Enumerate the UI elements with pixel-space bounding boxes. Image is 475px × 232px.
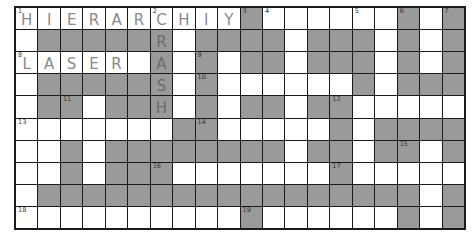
shaded-cell[interactable] — [398, 119, 419, 140]
answer-cell[interactable] — [420, 141, 441, 162]
shaded-cell[interactable] — [151, 141, 172, 162]
shaded-cell[interactable] — [38, 30, 59, 51]
shaded-cell[interactable] — [241, 141, 262, 162]
shaded-cell[interactable] — [196, 96, 217, 117]
answer-cell[interactable] — [420, 8, 441, 29]
shaded-cell[interactable] — [61, 30, 82, 51]
shaded-cell[interactable] — [353, 30, 374, 51]
shaded-cell[interactable] — [353, 74, 374, 95]
answer-cell[interactable] — [128, 119, 149, 140]
shaded-cell[interactable] — [218, 30, 239, 51]
shaded-cell[interactable] — [83, 185, 104, 206]
shaded-cell[interactable] — [443, 30, 464, 51]
shaded-cell[interactable]: 17 — [330, 163, 351, 184]
shaded-cell[interactable] — [398, 74, 419, 95]
answer-cell[interactable]: A — [106, 8, 127, 29]
answer-cell[interactable] — [38, 163, 59, 184]
shaded-cell[interactable] — [173, 185, 194, 206]
shaded-cell[interactable] — [61, 141, 82, 162]
shaded-cell[interactable] — [241, 96, 262, 117]
answer-cell[interactable] — [330, 8, 351, 29]
answer-cell[interactable] — [16, 30, 37, 51]
shaded-cell[interactable] — [330, 52, 351, 73]
answer-cell[interactable] — [375, 96, 396, 117]
answer-cell[interactable] — [353, 141, 374, 162]
shaded-cell[interactable] — [330, 185, 351, 206]
shaded-cell[interactable]: 10 — [196, 74, 217, 95]
answer-cell[interactable] — [420, 185, 441, 206]
shaded-cell[interactable] — [308, 30, 329, 51]
answer-cell[interactable] — [330, 207, 351, 228]
shaded-cell[interactable]: H — [151, 96, 172, 117]
shaded-cell[interactable] — [375, 119, 396, 140]
answer-cell[interactable] — [285, 96, 306, 117]
shaded-cell[interactable] — [443, 74, 464, 95]
answer-cell[interactable] — [420, 52, 441, 73]
shaded-cell[interactable]: R — [151, 30, 172, 51]
answer-cell[interactable] — [16, 185, 37, 206]
answer-cell[interactable] — [420, 207, 441, 228]
answer-cell[interactable] — [151, 119, 172, 140]
answer-cell[interactable] — [263, 74, 284, 95]
shaded-cell[interactable]: 11 — [61, 96, 82, 117]
answer-cell[interactable] — [308, 8, 329, 29]
answer-cell[interactable]: 8L — [16, 52, 37, 73]
answer-cell[interactable]: 13 — [16, 119, 37, 140]
shaded-cell[interactable]: 6 — [398, 8, 419, 29]
shaded-cell[interactable] — [38, 74, 59, 95]
answer-cell[interactable]: 18 — [16, 207, 37, 228]
answer-cell[interactable] — [285, 163, 306, 184]
answer-cell[interactable] — [420, 163, 441, 184]
answer-cell[interactable]: Y — [218, 8, 239, 29]
answer-cell[interactable]: 4 — [263, 8, 284, 29]
shaded-cell[interactable]: 19 — [241, 207, 262, 228]
answer-cell[interactable] — [263, 163, 284, 184]
answer-cell[interactable] — [196, 207, 217, 228]
shaded-cell[interactable]: 16 — [151, 163, 172, 184]
answer-cell[interactable] — [16, 96, 37, 117]
shaded-cell[interactable]: S — [151, 74, 172, 95]
shaded-cell[interactable] — [263, 96, 284, 117]
answer-cell[interactable]: 1H — [16, 8, 37, 29]
answer-cell[interactable] — [196, 163, 217, 184]
shaded-cell[interactable] — [443, 52, 464, 73]
answer-cell[interactable] — [353, 96, 374, 117]
shaded-cell[interactable]: 7 — [443, 8, 464, 29]
answer-cell[interactable] — [128, 207, 149, 228]
shaded-cell[interactable] — [106, 163, 127, 184]
answer-cell[interactable]: R — [106, 52, 127, 73]
answer-cell[interactable] — [285, 119, 306, 140]
shaded-cell[interactable] — [128, 163, 149, 184]
shaded-cell[interactable] — [106, 141, 127, 162]
shaded-cell[interactable] — [151, 185, 172, 206]
shaded-cell[interactable] — [330, 141, 351, 162]
answer-cell[interactable]: 5 — [353, 8, 374, 29]
shaded-cell[interactable] — [420, 119, 441, 140]
answer-cell[interactable] — [330, 74, 351, 95]
shaded-cell[interactable]: 15 — [398, 141, 419, 162]
shaded-cell[interactable] — [443, 141, 464, 162]
answer-cell[interactable] — [173, 163, 194, 184]
answer-cell[interactable] — [218, 74, 239, 95]
answer-cell[interactable] — [353, 207, 374, 228]
answer-cell[interactable] — [218, 207, 239, 228]
shaded-cell[interactable] — [218, 185, 239, 206]
shaded-cell[interactable] — [128, 141, 149, 162]
answer-cell[interactable]: 2C — [151, 8, 172, 29]
answer-cell[interactable] — [83, 96, 104, 117]
shaded-cell[interactable] — [308, 185, 329, 206]
answer-cell[interactable] — [353, 119, 374, 140]
shaded-cell[interactable] — [173, 141, 194, 162]
shaded-cell[interactable] — [38, 185, 59, 206]
answer-cell[interactable] — [218, 119, 239, 140]
answer-cell[interactable] — [398, 96, 419, 117]
answer-cell[interactable] — [420, 30, 441, 51]
shaded-cell[interactable] — [398, 52, 419, 73]
answer-cell[interactable] — [285, 8, 306, 29]
shaded-cell[interactable] — [61, 163, 82, 184]
shaded-cell[interactable] — [443, 119, 464, 140]
shaded-cell[interactable] — [443, 207, 464, 228]
shaded-cell[interactable] — [308, 96, 329, 117]
answer-cell[interactable] — [241, 163, 262, 184]
answer-cell[interactable]: H — [173, 8, 194, 29]
